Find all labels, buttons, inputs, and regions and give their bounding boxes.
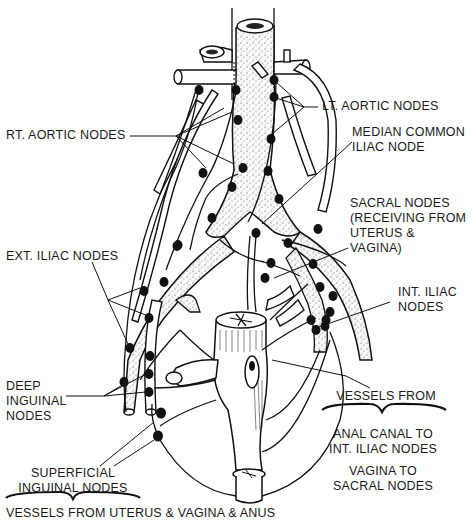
superficial-inguinal-node <box>153 431 163 442</box>
label-lt-aortic-nodes: LT. AORTIC NODES <box>322 99 439 114</box>
ext-iliac-node <box>208 213 217 223</box>
common-iliac-node <box>275 194 284 204</box>
lt-aortic-node <box>267 134 276 144</box>
rt-aortic-node <box>199 168 208 178</box>
common-iliac-node <box>228 182 237 192</box>
sacral-node <box>267 258 276 268</box>
organ-icon <box>166 312 267 503</box>
label-ext-iliac-nodes: EXT. ILIAC NODES <box>6 249 118 264</box>
int-iliac-node <box>316 282 325 292</box>
label-line: SACRAL NODES <box>350 196 466 211</box>
label-line: NODES <box>398 300 457 315</box>
sacral-node <box>261 273 270 283</box>
ext-iliac-node <box>126 343 135 353</box>
label-line: VAGINA) <box>350 241 466 256</box>
label-line: INT. ILIAC NODES <box>318 442 448 457</box>
figure-caption: VESSELS FROM UTERUS & VAGINA & ANUS <box>6 506 275 521</box>
label-line: INGUINAL NODES <box>4 481 142 496</box>
label-int-iliac-nodes: INT. ILIAC NODES <box>398 285 457 315</box>
label-line: INGUINAL <box>6 394 67 409</box>
median-node <box>239 163 248 173</box>
superficial-inguinal-node <box>156 408 166 419</box>
lt-aortic-node <box>270 92 279 102</box>
label-line: MEDIAN COMMON <box>352 125 465 140</box>
ext-iliac-node <box>174 240 183 250</box>
lymphatic-diagram: RT. AORTIC NODES LT. AORTIC NODES MEDIAN… <box>0 0 472 524</box>
label-vessels-from: VESSELS FROM <box>330 389 442 404</box>
rt-aortic-node <box>195 85 204 95</box>
rt-aortic-node <box>234 115 243 125</box>
label-line: SACRAL NODES <box>318 479 448 494</box>
label-median-common-iliac-node: MEDIAN COMMON ILIAC NODE <box>352 125 465 155</box>
label-line: (RECEIVING FROM <box>350 211 466 226</box>
label-sacral-nodes: SACRAL NODES (RECEIVING FROM UTERUS & VA… <box>350 196 466 256</box>
sacral-node <box>252 228 261 238</box>
int-iliac-node <box>307 315 316 325</box>
ext-iliac-node <box>140 286 149 296</box>
label-line: VAGINA TO <box>318 464 448 479</box>
label-line: SUPERFICIAL <box>4 466 142 481</box>
label-superficial-inguinal-nodes: SUPERFICIAL INGUINAL NODES <box>4 466 142 496</box>
label-rt-aortic-nodes: RT. AORTIC NODES <box>6 128 125 143</box>
label-anal-canal-to-int-iliac: ANAL CANAL TO INT. ILIAC NODES <box>318 427 448 457</box>
label-line: NODES <box>6 409 67 424</box>
label-line: ANAL CANAL TO <box>318 427 448 442</box>
sacral-node <box>284 238 293 248</box>
ext-iliac-node <box>145 313 154 323</box>
vessels-from-brace <box>322 404 446 412</box>
label-line: DEEP <box>6 379 67 394</box>
ext-iliac-node <box>160 277 169 287</box>
label-line: INT. ILIAC <box>398 285 457 300</box>
label-deep-inguinal-nodes: DEEP INGUINAL NODES <box>6 379 67 424</box>
sacral-node <box>314 224 323 234</box>
label-vagina-to-sacral: VAGINA TO SACRAL NODES <box>318 464 448 494</box>
label-line: UTERUS & <box>350 226 466 241</box>
label-line: ILIAC NODE <box>352 140 465 155</box>
int-iliac-node <box>329 291 338 301</box>
deep-inguinal-node <box>146 351 155 361</box>
rt-aortic-node <box>232 85 241 95</box>
median-node <box>264 166 273 176</box>
